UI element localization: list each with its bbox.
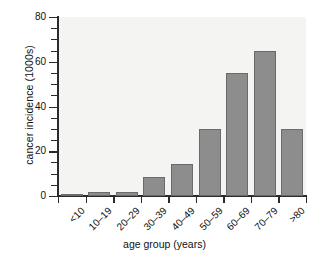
y-tick-label: 60 (35, 56, 46, 67)
bar (171, 164, 193, 196)
x-tick (223, 197, 224, 203)
x-tick (196, 197, 197, 203)
y-tick-minor (51, 140, 57, 141)
y-axis-line (57, 16, 59, 197)
y-tick-minor (51, 84, 57, 85)
y-tick-minor (51, 174, 57, 175)
y-tick-minor (51, 73, 57, 74)
y-tick-minor (51, 95, 57, 96)
x-tick (306, 197, 307, 203)
bar (226, 73, 248, 196)
y-tick-minor (51, 28, 57, 29)
y-tick-major: 40 (49, 107, 57, 108)
bar (281, 129, 303, 196)
y-axis-title: cancer incidence (1000s) (23, 10, 35, 200)
x-tick (251, 197, 252, 203)
x-tick (86, 197, 87, 203)
y-tick-minor (51, 129, 57, 130)
y-tick-minor (51, 39, 57, 40)
x-tick (278, 197, 279, 203)
x-tick (113, 197, 114, 203)
y-tick-minor (51, 185, 57, 186)
bar (88, 192, 110, 196)
y-tick-major: 20 (49, 151, 57, 152)
y-tick-major: 60 (49, 62, 57, 63)
y-tick-minor (51, 51, 57, 52)
bar (143, 177, 165, 196)
y-tick-label: 20 (35, 145, 46, 156)
bar (61, 194, 83, 196)
bar (116, 192, 138, 196)
x-axis-title: age group (years) (0, 238, 329, 250)
figure-caption (0, 260, 329, 266)
y-tick-major: 80 (49, 17, 57, 18)
y-tick-label: 0 (40, 190, 46, 201)
y-tick-minor (51, 162, 57, 163)
x-tick (141, 197, 142, 203)
figure: cancer incidence (1000s) 020406080 <1010… (0, 0, 329, 266)
x-tick (168, 197, 169, 203)
bar (254, 51, 276, 196)
x-tick (58, 197, 59, 203)
y-tick-label: 40 (35, 101, 46, 112)
y-tick-major: 0 (49, 196, 57, 197)
bar (199, 129, 221, 196)
y-tick-label: 80 (35, 11, 46, 22)
y-tick-minor (51, 118, 57, 119)
